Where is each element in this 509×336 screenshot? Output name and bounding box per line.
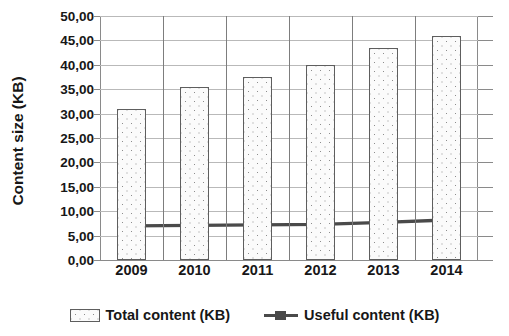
- x-axis-tick-labels: 200920102011201220132014: [100, 262, 478, 288]
- x-axis-tick-label-2012: 2012: [304, 262, 336, 278]
- x-axis-tick-label-2014: 2014: [430, 262, 462, 278]
- y-axis-tick: [93, 16, 100, 17]
- y-axis-tick: [93, 65, 100, 66]
- y-axis-tick-right: [478, 187, 493, 188]
- y-axis-tick: [93, 236, 100, 237]
- y-axis-tick: [93, 40, 100, 41]
- y-axis-tick-right: [478, 260, 493, 261]
- bar-total-content-2013[interactable]: [369, 48, 398, 260]
- y-axis-tick-label: 45,00: [60, 33, 94, 48]
- y-axis-tick: [93, 211, 100, 212]
- y-axis-tick-right: [478, 236, 493, 237]
- x-axis-tick-label-2011: 2011: [242, 262, 273, 278]
- y-axis-tick: [93, 114, 100, 115]
- x-axis-tick-label-2010: 2010: [178, 262, 210, 278]
- y-axis-tick-right: [478, 16, 493, 17]
- legend-label-useful-content: Useful content (KB): [304, 307, 439, 323]
- y-axis-tick-right: [478, 65, 493, 66]
- category-separator: [352, 16, 353, 260]
- category-separator: [226, 16, 227, 260]
- y-axis-tick-right: [478, 114, 493, 115]
- bar-total-content-2011[interactable]: [243, 77, 272, 260]
- y-axis-tick: [93, 138, 100, 139]
- category-separator: [289, 16, 290, 260]
- y-axis-tick-right: [478, 40, 493, 41]
- legend-label-total-content: Total content (KB): [106, 307, 231, 323]
- y-axis-tick-label: 35,00: [60, 82, 94, 97]
- y-axis-tick-label: 0,00: [68, 253, 94, 268]
- y-axis-tick-right: [478, 138, 493, 139]
- y-axis-tick-right: [478, 89, 493, 90]
- y-axis-tick-right: [478, 211, 493, 212]
- y-axis-tick: [93, 260, 100, 261]
- y-axis-tick-label: 20,00: [60, 155, 94, 170]
- y-axis-title-label: Content size (KB): [9, 76, 27, 205]
- gridline: [100, 260, 478, 261]
- bar-total-content-2010[interactable]: [180, 87, 209, 260]
- y-axis-tick-label: 40,00: [60, 57, 94, 72]
- bar-total-content-2009[interactable]: [117, 109, 146, 260]
- bar-total-content-2014[interactable]: [432, 36, 461, 260]
- y-axis-tick: [93, 187, 100, 188]
- category-separator: [163, 16, 164, 260]
- line-marker-swatch-icon: [264, 309, 298, 322]
- y-axis-tick-labels: 50,0045,0040,0035,0030,0025,0020,0015,00…: [36, 0, 98, 282]
- x-axis-tick-label-2009: 2009: [115, 262, 147, 278]
- chart-container: Content size (KB) 50,0045,0040,0035,0030…: [0, 0, 509, 336]
- plot-area: [100, 16, 478, 260]
- y-axis-tick-label: 25,00: [60, 131, 94, 146]
- bar-swatch-icon: [70, 309, 100, 322]
- y-axis-tick-right: [478, 162, 493, 163]
- legend-item-useful-content[interactable]: Useful content (KB): [264, 307, 439, 323]
- y-axis-tick-label: 15,00: [60, 179, 94, 194]
- bar-total-content-2012[interactable]: [306, 65, 335, 260]
- x-axis-tick-label-2013: 2013: [367, 262, 399, 278]
- y-axis-tick-label: 5,00: [68, 228, 94, 243]
- chart-legend: Total content (KB) Useful content (KB): [0, 300, 509, 330]
- y-axis-tick-label: 50,00: [60, 9, 94, 24]
- y-axis-tick-label: 30,00: [60, 106, 94, 121]
- y-axis-title: Content size (KB): [0, 0, 36, 282]
- category-separator: [415, 16, 416, 260]
- y-axis-tick: [93, 89, 100, 90]
- y-axis-tick: [93, 162, 100, 163]
- legend-item-total-content[interactable]: Total content (KB): [70, 307, 231, 323]
- y-axis-tick-label: 10,00: [60, 204, 94, 219]
